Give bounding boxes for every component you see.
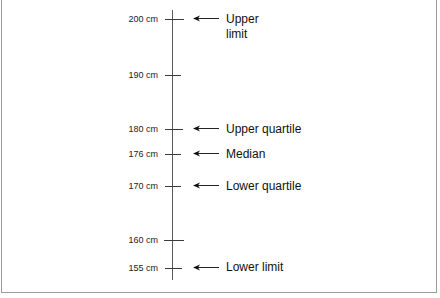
diagram-frame: [1, 0, 437, 293]
callout-upper-limit: Upper limit: [226, 12, 259, 42]
tick-label-160: 160 cm: [98, 235, 158, 245]
tick-label-170: 170 cm: [98, 181, 158, 191]
tick-mark-160: [164, 240, 184, 241]
tick-mark-180: [165, 129, 183, 130]
tick-mark-155: [165, 268, 182, 269]
left-arrow-icon: [193, 14, 219, 23]
callout-median: Median: [226, 147, 265, 162]
tick-label-200: 200 cm: [98, 14, 158, 24]
left-arrow-icon: [193, 124, 219, 133]
tick-mark-200: [165, 19, 184, 20]
callout-lower-quartile: Lower quartile: [226, 179, 301, 194]
tick-label-176: 176 cm: [98, 149, 158, 159]
tick-mark-190: [165, 75, 181, 76]
callout-upper-quartile: Upper quartile: [226, 122, 301, 137]
callout-lower-limit: Lower limit: [226, 260, 283, 275]
tick-label-190: 190 cm: [98, 70, 158, 80]
tick-mark-170: [165, 186, 181, 187]
callout-upper-limit-line1: Upper: [226, 12, 259, 27]
left-arrow-icon: [193, 149, 219, 158]
tick-label-180: 180 cm: [98, 124, 158, 134]
left-arrow-icon: [193, 263, 219, 272]
tick-label-155: 155 cm: [98, 263, 158, 273]
callout-upper-limit-line2: limit: [226, 27, 259, 42]
left-arrow-icon: [193, 181, 219, 190]
tick-mark-176: [165, 154, 181, 155]
